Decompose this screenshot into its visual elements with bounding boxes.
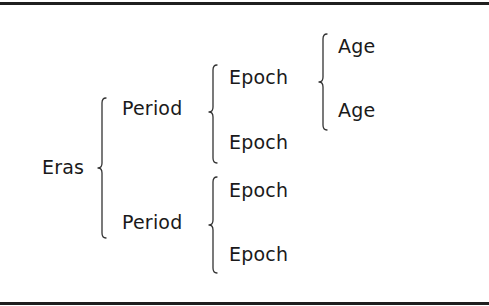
eras-brace <box>96 95 110 241</box>
age-1-label: Age <box>338 35 375 57</box>
eras-label: Eras <box>42 156 84 178</box>
epoch-2-label: Epoch <box>229 131 288 153</box>
age-2-label: Age <box>338 99 375 121</box>
period-1-brace <box>207 62 221 166</box>
top-rule <box>0 2 489 5</box>
epoch-3-label: Epoch <box>229 179 288 201</box>
epoch-1-label: Epoch <box>229 66 288 88</box>
bottom-rule <box>0 302 489 305</box>
period-2-label: Period <box>122 211 182 233</box>
epoch-1-brace <box>317 31 331 133</box>
epoch-4-label: Epoch <box>229 243 288 265</box>
period-1-label: Period <box>122 97 182 119</box>
period-2-brace <box>207 174 221 276</box>
